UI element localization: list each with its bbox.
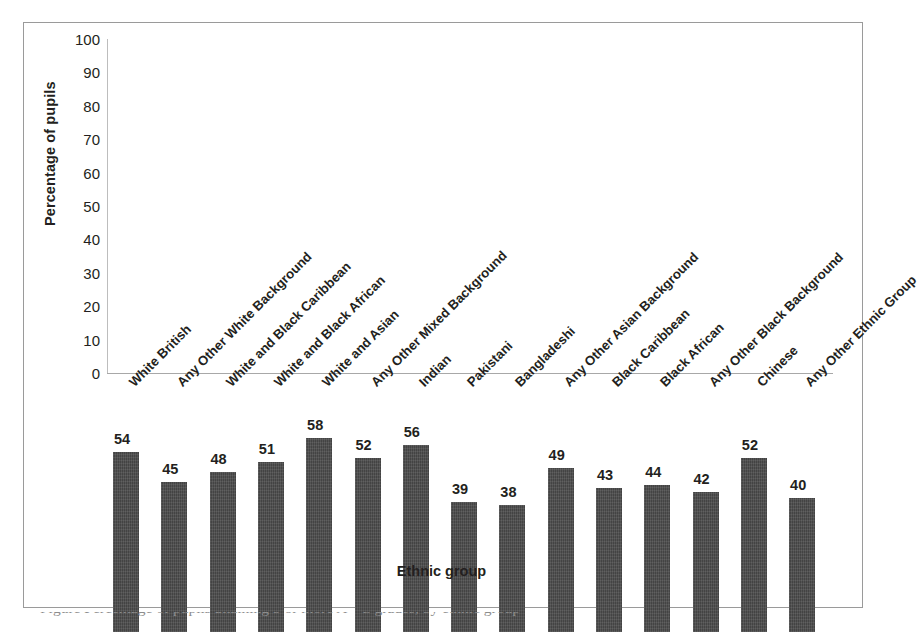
bar <box>306 438 332 632</box>
bar-value-label: 54 <box>105 431 139 447</box>
y-tick-label: 0 <box>92 366 100 381</box>
bar-value-label: 39 <box>443 481 477 497</box>
y-axis-title: Percentage of pupils <box>42 202 58 226</box>
caption-remnant: Figure Percentage of pupils attaining 5 … <box>40 612 840 630</box>
bar-value-label: 49 <box>540 447 574 463</box>
bar-value-label: 42 <box>685 471 719 487</box>
y-tick-label: 50 <box>83 199 100 214</box>
y-axis-line <box>107 39 108 374</box>
y-tick-label: 20 <box>83 299 100 314</box>
y-tick-label: 100 <box>75 32 100 47</box>
x-axis-title: Ethnic group <box>0 563 883 579</box>
bar-value-label: 52 <box>733 437 767 453</box>
bar <box>548 468 574 632</box>
y-tick-label: 70 <box>83 132 100 147</box>
bar <box>596 488 622 632</box>
y-axis-tick-labels: 1009080706050403020100 <box>56 0 100 632</box>
bar-value-label: 51 <box>250 441 284 457</box>
bar-value-label: 45 <box>153 461 187 477</box>
y-tick-label: 10 <box>83 333 100 348</box>
bar-value-label: 56 <box>395 424 429 440</box>
y-tick-label: 40 <box>83 232 100 247</box>
y-tick-label: 90 <box>83 65 100 80</box>
bar <box>403 445 429 632</box>
bar <box>644 485 670 632</box>
bar-value-label: 40 <box>781 477 815 493</box>
bar <box>113 452 139 632</box>
bar <box>693 492 719 632</box>
bar <box>741 458 767 632</box>
y-tick-label: 30 <box>83 266 100 281</box>
bar-value-label: 43 <box>588 467 622 483</box>
bar-value-label: 52 <box>347 437 381 453</box>
bar <box>161 482 187 632</box>
bar <box>355 458 381 632</box>
bar <box>258 462 284 632</box>
bar-value-label: 44 <box>636 464 670 480</box>
bar-value-label: 38 <box>491 484 525 500</box>
caption-remnant-text: Figure Percentage of pupils attaining 5 … <box>40 612 840 617</box>
y-tick-label: 80 <box>83 99 100 114</box>
y-tick-label: 60 <box>83 166 100 181</box>
bar-value-label: 58 <box>298 417 332 433</box>
bar-value-label: 48 <box>202 451 236 467</box>
bar <box>210 472 236 632</box>
